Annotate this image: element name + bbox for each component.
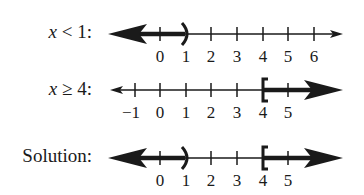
tick-label: 4 [259,171,268,190]
tick-label: 2 [207,171,216,190]
tick-label: 1 [182,103,191,122]
number-line-x-lt-1: 0 1 2 3 4 5 6 [108,23,343,66]
number-line-x-ge-4: −1 0 1 2 3 4 5 [110,79,343,122]
tick-label: 5 [284,103,293,122]
tick-label: 1 [182,47,191,66]
tick-label: 4 [259,103,268,122]
tick-label: 3 [233,171,242,190]
tick-label: 3 [233,103,242,122]
tick-label: 0 [156,103,165,122]
number-lines-figure: 0 1 2 3 4 5 6 −1 0 1 2 3 4 5 [0,0,364,195]
tick-label: 5 [284,171,293,190]
tick-label: 4 [259,47,268,66]
tick-label: 0 [156,47,165,66]
number-line-solution: 0 1 2 3 4 5 [108,147,343,190]
tick-label: 0 [156,171,165,190]
tick-label: 3 [233,47,242,66]
tick-label: 2 [207,103,216,122]
tick-label: 5 [284,47,293,66]
tick-label: 6 [310,47,319,66]
tick-label: −1 [122,103,140,122]
tick-label: 1 [182,171,191,190]
tick-label: 2 [207,47,216,66]
